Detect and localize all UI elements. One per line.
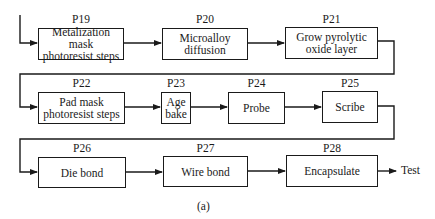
step-box-scribe: Scribe [322, 91, 378, 123]
step-text: Encapsulate [304, 165, 360, 177]
step-label-p26: P26 [38, 142, 126, 154]
step-box-age-bake: Agebake [161, 92, 191, 124]
step-label-p19: P19 [38, 13, 124, 25]
step-text-line2: photoresist steps [39, 50, 123, 62]
step-text: Wire bond [181, 166, 229, 178]
step-text: Die bond [61, 167, 103, 179]
step-label-p23: P23 [161, 77, 191, 89]
step-text-line1: Metalization mask [39, 26, 123, 50]
output-label-test: Test [401, 164, 420, 176]
step-label-p24: P24 [228, 77, 285, 89]
step-box-metalization-mask: Metalization maskphotoresist steps [38, 28, 124, 60]
step-text: Probe [243, 102, 270, 114]
step-box-grow-pyrolytic-oxide: Grow pyrolyticoxide layer [285, 27, 378, 59]
step-label-p22: P22 [38, 77, 125, 89]
step-box-die-bond: Die bond [38, 157, 126, 188]
step-box-microalloy-diffusion: Microalloydiffusion [162, 28, 248, 60]
step-box-wire-bond: Wire bond [163, 156, 248, 187]
step-text-line2: oxide layer [296, 43, 367, 55]
step-text-line1: Age [165, 96, 187, 108]
step-box-pad-mask: Pad maskphotoresist steps [38, 92, 125, 124]
step-text-line1: Pad mask [43, 96, 119, 108]
step-text-line1: Grow pyrolytic [296, 31, 367, 43]
figure-caption: (a) [197, 200, 210, 212]
step-text-line2: bake [165, 108, 187, 120]
step-box-probe: Probe [228, 92, 285, 124]
step-label-p20: P20 [162, 13, 248, 25]
step-label-p27: P27 [163, 142, 248, 154]
step-text-line1: Microalloy [179, 32, 230, 44]
step-box-encapsulate: Encapsulate [286, 155, 378, 187]
step-label-p28: P28 [286, 142, 378, 154]
step-label-p21: P21 [285, 13, 378, 25]
step-text: Scribe [335, 101, 364, 113]
step-label-p25: P25 [322, 77, 378, 89]
step-text-line2: diffusion [179, 44, 230, 56]
step-text-line2: photoresist steps [43, 108, 119, 120]
